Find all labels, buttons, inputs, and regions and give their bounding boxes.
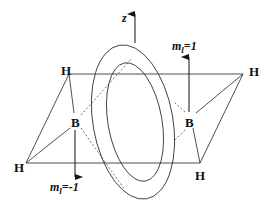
ml-plus-label: ml=1 (172, 39, 197, 55)
plane-edges (26, 74, 243, 163)
atom-h-top-right: H (249, 64, 259, 79)
ring-inner (98, 58, 172, 186)
atom-h-top-left: H (61, 63, 71, 78)
atom-b-right: B (185, 115, 194, 130)
ml-minus-label: ml=-1 (50, 180, 79, 196)
left-edge (26, 74, 69, 163)
diborane-ring-diagram: z ml=1 ml=-1 H H H H B B (0, 0, 274, 211)
z-axis-label: z (121, 11, 127, 25)
atom-b-left: B (71, 115, 80, 130)
ring-orbital (80, 38, 186, 206)
bridge-bonds (81, 58, 185, 190)
right-edge (200, 74, 243, 163)
ring-outer (80, 38, 186, 206)
bh-bonds (26, 74, 243, 163)
atom-h-bottom-right: H (195, 168, 205, 183)
atom-h-bottom-left: H (14, 160, 24, 175)
